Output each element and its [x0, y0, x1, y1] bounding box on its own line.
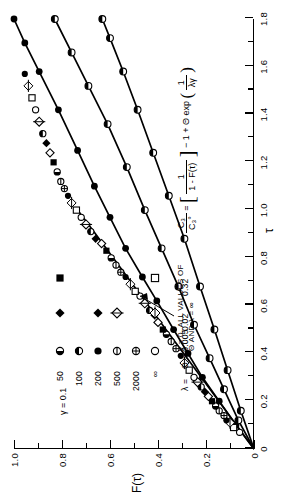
- legend-row-symbols: [71, 217, 87, 367]
- equation-lhs-num: C₃: [176, 213, 187, 233]
- scatter-point: [33, 117, 45, 126]
- x-tick-label: 0.4: [258, 346, 269, 360]
- equation-exp-num: 1: [176, 75, 187, 90]
- legend-symbol: [151, 347, 158, 354]
- series-marker: [224, 367, 231, 374]
- equation-bracket-open: [: [179, 196, 195, 203]
- x-tick-label: 1.6: [258, 60, 269, 74]
- series-marker: [99, 16, 106, 23]
- y-axis-title: F(τ): [130, 473, 144, 493]
- scatter-point: [42, 139, 50, 147]
- legend-row-symbols: [147, 217, 163, 367]
- y-tick-label: 0.4: [153, 453, 164, 479]
- legend-symbol: [110, 308, 123, 318]
- limit-note-line1: γ = 0, ALL VALUES OF: [176, 265, 185, 351]
- series-marker: [107, 35, 114, 42]
- scatter-point: [221, 412, 227, 418]
- equation-annotation: C₃ C₃° = [ 1 1 - F(τ) ] − 1 + Θ exp ( 1 …: [176, 67, 197, 233]
- series-marker: [68, 49, 75, 56]
- legend-symbol: [132, 347, 139, 354]
- x-tick-label: 0: [258, 446, 269, 452]
- equation-lhs: C₃ C₃°: [176, 213, 197, 233]
- legend-symbol: [93, 308, 102, 317]
- series-marker: [165, 192, 172, 199]
- x-tick-label: 0.8: [258, 251, 269, 265]
- legend-row-symbols: [109, 217, 125, 367]
- scatter-point: [54, 169, 60, 175]
- series-marker: [235, 417, 242, 424]
- scatter-point: [237, 429, 243, 435]
- equation-equals: =: [181, 205, 191, 210]
- equation-exponent-fraction: 1 λγ: [176, 75, 197, 90]
- legend-symbol: [56, 347, 63, 354]
- series-marker: [237, 407, 244, 414]
- equation-inner-den: 1 - F(τ): [187, 160, 197, 194]
- legend-row-symbols: [90, 217, 106, 367]
- scatter-point: [61, 186, 67, 192]
- scatter-point: [24, 80, 33, 92]
- legend-row-label: ∞: [150, 371, 160, 409]
- equation-lhs-den: C₃°: [187, 213, 197, 233]
- series-marker: [85, 82, 92, 89]
- equation-minus: −: [181, 143, 191, 148]
- scatter-point: [33, 107, 39, 113]
- equation-inner-fraction: 1 1 - F(τ): [176, 160, 197, 194]
- x-tick-label: 0.6: [258, 299, 269, 313]
- legend-symbol: [151, 274, 158, 281]
- figure-canvas: 00.20.40.60.81.01.21.41.61.8 00.20.40.60…: [0, 0, 287, 501]
- limit-note-line2: Θ AND λ = ∞: [187, 302, 196, 351]
- equation-inner-num: 1: [176, 160, 187, 194]
- scatter-point: [58, 178, 64, 184]
- series-marker: [141, 207, 148, 214]
- series-marker: [36, 68, 43, 75]
- legend-row-label: 500: [112, 371, 122, 409]
- rotated-figure-wrapper: 00.20.40.60.81.01.21.41.61.8 00.20.40.60…: [0, 0, 287, 501]
- series-marker: [120, 68, 127, 75]
- y-tick: [254, 440, 255, 448]
- series-marker: [91, 183, 98, 190]
- series-marker: [21, 39, 28, 46]
- equation-exp-den: λγ: [187, 75, 197, 90]
- x-tick-label: 1.2: [258, 155, 269, 169]
- equation-paren-close: ): [180, 67, 194, 73]
- x-tick-label: 0.2: [258, 394, 269, 408]
- series-marker: [197, 283, 204, 290]
- legend-row-symbols: [52, 217, 68, 367]
- legend-symbol: [55, 308, 64, 317]
- legend-symbol: [150, 306, 160, 319]
- equation-den-prefix: 1 + Θ exp: [181, 101, 191, 140]
- series-marker: [221, 386, 228, 393]
- legend-gamma-header: γ = 0.1: [58, 388, 68, 415]
- equation-paren-open: (: [180, 93, 194, 99]
- legend-symbol: [113, 347, 120, 354]
- scatter-point: [65, 193, 71, 199]
- legend: λ =Θ = 0.0050.020.32501002005002000∞: [60, 239, 180, 409]
- series-marker: [123, 164, 130, 171]
- equation-bracket-close: ]: [179, 151, 195, 158]
- legend-lambda-header: λ =: [180, 379, 190, 391]
- scatter-point: [40, 131, 46, 137]
- series-marker: [11, 16, 18, 23]
- legend-row-label: 100: [74, 371, 84, 409]
- series-marker: [55, 106, 62, 113]
- legend-row-label: 2000: [131, 371, 141, 409]
- scatter-point: [46, 149, 54, 157]
- series-marker: [181, 235, 188, 242]
- chart-figure: 00.20.40.60.81.01.21.41.61.8 00.20.40.60…: [0, 0, 287, 501]
- x-axis-title: τ: [262, 228, 276, 233]
- legend-symbol: [56, 274, 63, 281]
- x-tick-label: 1.4: [258, 108, 269, 122]
- legend-row-symbols: [128, 217, 144, 367]
- scatter-point: [22, 71, 28, 77]
- series-marker: [134, 106, 141, 113]
- x-tick-label: 1.0: [258, 203, 269, 217]
- series-marker: [206, 355, 213, 362]
- series-marker: [211, 326, 218, 333]
- series-marker: [150, 149, 157, 156]
- scatter-point: [73, 207, 79, 213]
- scatter-point: [29, 95, 35, 101]
- legend-symbol: [75, 347, 82, 354]
- series-marker: [51, 16, 58, 23]
- legend-symbol: [94, 347, 101, 354]
- y-tick-label: 1.0: [9, 453, 20, 479]
